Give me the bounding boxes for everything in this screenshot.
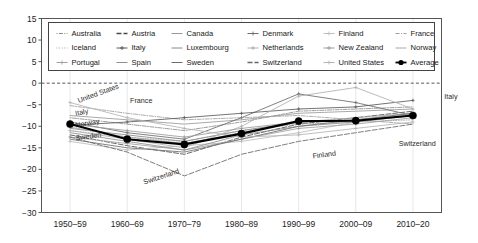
series-marker xyxy=(297,107,300,110)
line-chart-canvas: 151050−5−10−15−20−25−30 1950–591960–6919… xyxy=(0,0,478,243)
legend-label: United States xyxy=(339,58,385,67)
x-tick-label: 2010–20 xyxy=(396,219,429,229)
series-marker xyxy=(183,127,186,130)
legend-label: Sweden xyxy=(187,58,214,67)
series-marker xyxy=(411,99,414,102)
series-marker xyxy=(126,148,129,151)
legend-label: Australia xyxy=(72,29,102,38)
x-axis-ticks: 1950–591960–691970–791980–891990–992000–… xyxy=(54,219,430,229)
legend-label: Austria xyxy=(132,29,156,38)
series-annotation: Switzerland xyxy=(399,139,436,148)
x-tick-label: 1980–89 xyxy=(225,219,258,229)
legend-label: Denmark xyxy=(263,29,294,38)
series-marker xyxy=(297,127,300,130)
average-data-point xyxy=(238,130,245,137)
legend-label: Spain xyxy=(132,58,151,67)
average-data-point xyxy=(124,136,131,143)
y-tick-label: −25 xyxy=(22,186,37,196)
average-data-point xyxy=(295,118,302,125)
series-marker xyxy=(354,101,357,104)
legend-label: Portugal xyxy=(72,58,101,67)
average-data-point xyxy=(66,121,73,128)
y-tick-label: −10 xyxy=(22,121,37,131)
legend-label: Switzerland xyxy=(263,58,302,67)
y-tick-label: 10 xyxy=(27,35,37,45)
series-marker xyxy=(126,129,129,132)
average-data-point xyxy=(409,112,416,119)
series-marker xyxy=(240,112,243,115)
series-marker xyxy=(183,116,186,119)
legend-label: Average xyxy=(411,58,439,67)
average-data-point xyxy=(352,117,359,124)
chart-figure: 151050−5−10−15−20−25−30 1950–591960–6919… xyxy=(0,0,478,243)
series-marker xyxy=(68,129,71,132)
series-marker xyxy=(297,94,300,97)
y-tick-label: −30 xyxy=(22,208,37,218)
legend-label: Canada xyxy=(187,29,214,38)
y-tick-label: 5 xyxy=(32,57,37,67)
series-marker xyxy=(411,107,414,110)
x-tick-label: 2000–09 xyxy=(339,219,372,229)
series-marker xyxy=(68,101,71,104)
series-marker xyxy=(183,135,186,138)
legend-label: Italy xyxy=(132,43,146,52)
average-data-point xyxy=(181,141,188,148)
legend-label: Luxembourg xyxy=(187,43,229,52)
x-tick-label: 1990–99 xyxy=(282,219,315,229)
legend-label: France xyxy=(411,29,435,38)
series-marker xyxy=(297,133,300,136)
legend-label: Iceland xyxy=(72,43,97,52)
legend-label: Netherlands xyxy=(263,43,304,52)
legend-label: Norway xyxy=(411,43,437,52)
series-annotation: United States xyxy=(76,82,120,105)
series-marker xyxy=(126,116,129,119)
y-tick-label: 0 xyxy=(32,78,37,88)
y-tick-label: −20 xyxy=(22,164,37,174)
y-tick-label: −5 xyxy=(27,100,37,110)
chart-legend: AustraliaAustriaCanadaDenmarkFinlandFran… xyxy=(49,23,439,71)
series-marker xyxy=(354,127,357,130)
series-marker xyxy=(68,140,71,143)
series-annotation: France xyxy=(130,96,152,105)
series-annotation: Italy xyxy=(74,106,89,118)
y-axis-ticks: 151050−5−10−15−20−25−30 xyxy=(22,14,41,218)
series-annotation: Italy xyxy=(444,92,458,101)
legend-swatch-dot xyxy=(398,60,403,65)
series-marker xyxy=(411,120,414,123)
x-tick-label: 1970–79 xyxy=(168,219,201,229)
y-tick-label: 15 xyxy=(27,14,37,24)
x-tick-label: 1960–69 xyxy=(111,219,144,229)
series-annotation: Switzerland xyxy=(142,166,180,186)
series-annotation: Finland xyxy=(312,148,337,160)
legend-label: Finland xyxy=(339,29,364,38)
series-marker xyxy=(354,105,357,108)
series-marker xyxy=(240,127,243,130)
series-marker xyxy=(354,86,357,89)
legend-label: New Zealand xyxy=(339,43,384,52)
y-tick-label: −15 xyxy=(22,143,37,153)
x-tick-label: 1950–59 xyxy=(54,219,87,229)
series-marker xyxy=(126,120,129,123)
